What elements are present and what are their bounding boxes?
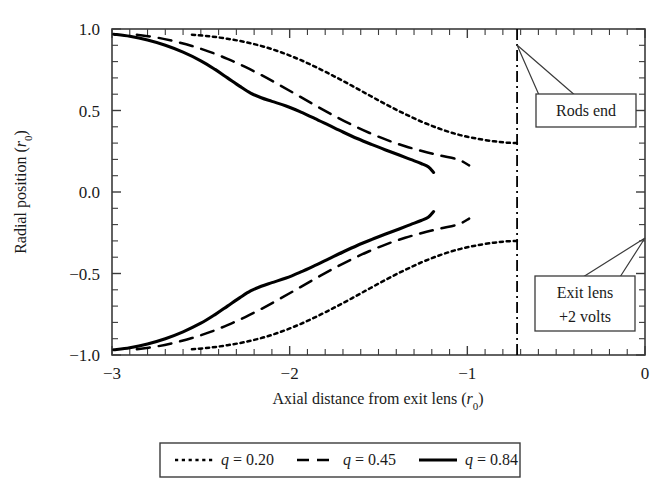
radial-position-chart: −3−2−10 1.00.50.0−0.5−1.0 Axial distance…	[0, 0, 667, 493]
rods-end-label: Rods end	[556, 102, 616, 119]
figure-container: −3−2−10 1.00.50.0−0.5−1.0 Axial distance…	[0, 0, 667, 493]
x-tick-label: 0	[641, 364, 650, 383]
exit-lens-label-line2: +2 volts	[559, 308, 611, 325]
y-tick-label: −1.0	[69, 346, 100, 365]
x-tick-label: −2	[281, 364, 299, 383]
legend-label-2: q = 0.84	[465, 451, 518, 469]
legend-items: q = 0.20q = 0.45q = 0.84	[175, 451, 518, 469]
y-tick-label: 1.0	[79, 20, 100, 39]
x-tick-label: −1	[458, 364, 476, 383]
legend-label-1: q = 0.45	[343, 451, 396, 469]
chart-background	[0, 0, 667, 493]
legend-label-0: q = 0.20	[221, 451, 274, 469]
legend: q = 0.20q = 0.45q = 0.84	[160, 443, 520, 477]
y-tick-label: 0.0	[79, 183, 100, 202]
y-tick-label: −0.5	[69, 265, 100, 284]
y-tick-label: 0.5	[79, 102, 100, 121]
x-tick-label: −3	[103, 364, 121, 383]
exit-lens-label-line1: Exit lens	[557, 284, 613, 301]
